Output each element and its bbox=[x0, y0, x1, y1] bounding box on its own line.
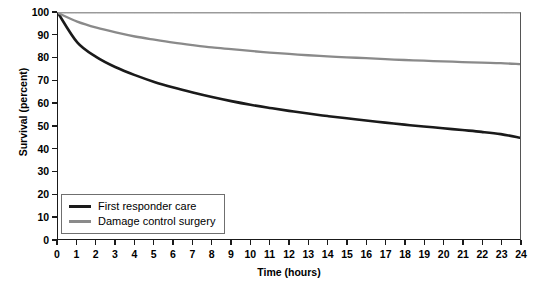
x-tick-mark bbox=[346, 240, 347, 245]
x-tick-label: 22 bbox=[476, 249, 488, 260]
x-tick-mark bbox=[520, 240, 521, 245]
y-tick-100: 100 bbox=[32, 5, 57, 19]
x-tick-mark bbox=[443, 240, 444, 245]
x-tick-label: 16 bbox=[360, 249, 372, 260]
x-tick-label: 5 bbox=[151, 249, 157, 260]
y-tick-label: 40 bbox=[38, 144, 52, 155]
y-tick-10: 10 bbox=[38, 210, 57, 224]
chart-legend: First responder careDamage control surge… bbox=[61, 194, 225, 234]
x-tick-mark bbox=[404, 240, 405, 245]
series-line-1 bbox=[58, 13, 520, 64]
y-tick-50: 50 bbox=[38, 119, 57, 133]
y-tick-mark bbox=[52, 171, 57, 172]
x-tick-mark bbox=[424, 240, 425, 245]
y-tick-mark bbox=[52, 194, 57, 195]
y-tick-label: 100 bbox=[32, 7, 52, 18]
y-tick-mark bbox=[52, 148, 57, 149]
x-tick-label: 10 bbox=[244, 249, 256, 260]
y-tick-label: 60 bbox=[38, 98, 52, 109]
legend-swatch-0 bbox=[69, 205, 91, 208]
x-tick-mark bbox=[385, 240, 386, 245]
x-tick-label: 7 bbox=[189, 249, 195, 260]
x-tick-mark bbox=[211, 240, 212, 245]
x-tick-mark bbox=[501, 240, 502, 245]
x-tick-mark bbox=[250, 240, 251, 245]
x-tick-label: 4 bbox=[131, 249, 137, 260]
series-paths bbox=[58, 13, 520, 138]
survival-chart-figure: 0102030405060708090100 01234567891011121… bbox=[0, 0, 536, 289]
x-tick-label: 2 bbox=[93, 249, 99, 260]
x-tick-mark bbox=[327, 240, 328, 245]
x-tick-mark bbox=[172, 240, 173, 245]
x-tick-label: 18 bbox=[399, 249, 411, 260]
x-tick-label: 15 bbox=[341, 249, 353, 260]
y-tick-70: 70 bbox=[38, 73, 57, 87]
x-tick-label: 8 bbox=[209, 249, 215, 260]
x-tick-label: 24 bbox=[515, 249, 527, 260]
y-tick-label: 80 bbox=[38, 52, 52, 63]
x-tick-label: 1 bbox=[73, 249, 79, 260]
y-tick-60: 60 bbox=[38, 96, 57, 110]
x-tick-label: 12 bbox=[283, 249, 295, 260]
x-tick-label: 23 bbox=[496, 249, 508, 260]
x-tick-mark bbox=[153, 240, 154, 245]
x-tick-mark bbox=[462, 240, 463, 245]
x-tick-label: 3 bbox=[112, 249, 118, 260]
x-tick-mark bbox=[308, 240, 309, 245]
x-tick-mark bbox=[114, 240, 115, 245]
x-tick-mark bbox=[134, 240, 135, 245]
legend-item-0: First responder care bbox=[69, 199, 215, 214]
y-tick-30: 30 bbox=[38, 165, 57, 179]
y-tick-label: 70 bbox=[38, 75, 52, 86]
y-tick-mark bbox=[52, 216, 57, 217]
y-tick-90: 90 bbox=[38, 28, 57, 42]
x-tick-mark bbox=[95, 240, 96, 245]
y-tick-label: 90 bbox=[38, 30, 52, 41]
x-tick-mark bbox=[76, 240, 77, 245]
x-tick-mark bbox=[288, 240, 289, 245]
y-axis-title: Survival (percent) bbox=[17, 32, 29, 192]
series-line-0 bbox=[58, 13, 520, 138]
y-tick-mark bbox=[52, 11, 57, 12]
legend-label-0: First responder care bbox=[98, 201, 196, 212]
y-tick-label: 10 bbox=[38, 212, 52, 223]
y-tick-mark bbox=[52, 34, 57, 35]
x-tick-mark bbox=[482, 240, 483, 245]
y-tick-40: 40 bbox=[38, 142, 57, 156]
y-tick-mark bbox=[52, 57, 57, 58]
y-tick-label: 30 bbox=[38, 166, 52, 177]
y-tick-mark bbox=[52, 80, 57, 81]
x-tick-label: 9 bbox=[228, 249, 234, 260]
y-tick-label: 20 bbox=[38, 189, 52, 200]
y-tick-mark bbox=[52, 125, 57, 126]
x-tick-label: 14 bbox=[322, 249, 334, 260]
x-tick-label: 0 bbox=[54, 249, 60, 260]
x-tick-label: 17 bbox=[380, 249, 392, 260]
legend-label-1: Damage control surgery bbox=[98, 216, 215, 227]
legend-swatch-1 bbox=[69, 220, 91, 223]
x-tick-label: 13 bbox=[302, 249, 314, 260]
x-tick-label: 21 bbox=[457, 249, 469, 260]
x-tick-mark bbox=[230, 240, 231, 245]
y-tick-20: 20 bbox=[38, 187, 57, 201]
x-axis-title: Time (hours) bbox=[57, 266, 521, 278]
x-tick-label: 20 bbox=[438, 249, 450, 260]
x-tick-label: 11 bbox=[264, 249, 275, 260]
y-tick-80: 80 bbox=[38, 51, 57, 65]
y-tick-label: 50 bbox=[38, 121, 52, 132]
x-tick-mark bbox=[192, 240, 193, 245]
y-tick-mark bbox=[52, 102, 57, 103]
x-tick-mark bbox=[269, 240, 270, 245]
x-tick-label: 19 bbox=[418, 249, 430, 260]
x-tick-mark bbox=[56, 240, 57, 245]
x-tick-mark bbox=[366, 240, 367, 245]
legend-item-1: Damage control surgery bbox=[69, 214, 215, 229]
x-tick-label: 6 bbox=[170, 249, 176, 260]
